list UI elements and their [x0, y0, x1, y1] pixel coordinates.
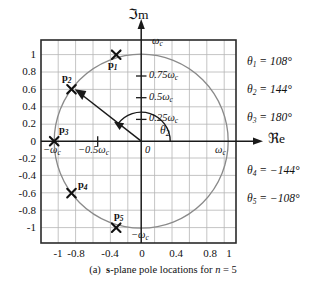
- caption-var-n: n: [215, 264, 220, 275]
- pole-label-p2-sub: 2: [68, 76, 72, 85]
- real-label-omega-c: ωc: [215, 145, 226, 157]
- ytick-label-6: -0.2: [2, 153, 36, 164]
- theta-entry-4: θ4 = −144°: [247, 165, 300, 178]
- theta1-equals: =: [259, 55, 267, 67]
- pole-label-p5: p5: [114, 211, 124, 223]
- theta1-subscript: 1: [253, 60, 257, 69]
- real-label-origin: 0: [145, 145, 150, 156]
- ytick-label-10: -1: [2, 222, 36, 233]
- imag-label-omega-c: ωc: [152, 36, 163, 48]
- theta-entry-2: θ2 = 144°: [247, 84, 292, 97]
- theta2-subscript: 2: [166, 129, 170, 138]
- theta5-value: −108°: [270, 192, 300, 204]
- real-label-neg-omega-c: −ωc: [43, 145, 61, 157]
- real-axis-arrowhead: [253, 138, 263, 145]
- ytick-label-1: 0.8: [2, 66, 36, 77]
- pole-label-p5-sub: 5: [120, 214, 124, 223]
- ytick-label-2: 0.6: [2, 84, 36, 95]
- theta-entry-3: θ3 = 180°: [247, 112, 292, 125]
- ytick-label-3: 0.4: [2, 101, 36, 112]
- imag-label-neg-omega-c: −ωc: [131, 230, 149, 242]
- pole-label-p2: p2: [62, 73, 72, 85]
- theta4-subscript: 4: [253, 169, 257, 178]
- imag-label-0p5-omega-c: 0.5ωc: [149, 92, 173, 104]
- theta4-value: −144°: [270, 164, 300, 176]
- imag-label-0p25-omega-c: 0.25ωc: [149, 113, 178, 125]
- theta2-value: 144°: [270, 83, 292, 95]
- xtick-label-1: -0.8: [60, 248, 92, 259]
- caption-eq: = 5: [223, 264, 237, 275]
- imag-label-0p75-omega-c: 0.75ωc: [149, 70, 178, 82]
- pole-label-p3-sub: 3: [65, 128, 69, 137]
- ytick-label-0: 1: [2, 49, 36, 60]
- pole-label-p1: p1: [108, 60, 118, 72]
- ytick-label-5: 0: [2, 136, 36, 147]
- ytick-label-4: 0.2: [2, 118, 36, 129]
- theta2-equals: =: [259, 83, 267, 95]
- theta4-equals: =: [259, 164, 267, 176]
- radius-vector-arrowhead: [75, 89, 87, 100]
- xtick-label-4: 0.4: [160, 248, 192, 259]
- ytick-label-7: -0.4: [2, 170, 36, 181]
- theta-entry-5: θ5 = −108°: [247, 193, 300, 206]
- radius-vector: [82, 95, 142, 142]
- theta5-subscript: 5: [253, 197, 257, 206]
- caption-prefix: (a): [89, 264, 101, 275]
- theta3-value: 180°: [270, 111, 292, 123]
- ytick-label-9: -0.8: [2, 205, 36, 216]
- ytick-label-8: -0.6: [2, 188, 36, 199]
- theta3-equals: =: [259, 111, 267, 123]
- figure-caption: (a) s-plane pole locations for n = 5: [0, 265, 326, 276]
- theta-entry-1: θ1 = 108°: [247, 56, 292, 69]
- theta3-subscript: 3: [253, 116, 257, 125]
- imag-axis-label: ℑm: [128, 8, 149, 22]
- xtick-label-2: -0.4: [94, 248, 126, 259]
- pole-label-p4-sub: 4: [84, 183, 88, 192]
- pole-label-p3: p3: [59, 125, 69, 137]
- theta5-equals: =: [259, 192, 267, 204]
- real-label-neg-0p5-omega-c: −0.5ωc: [78, 145, 109, 157]
- theta1-value: 108°: [270, 55, 292, 67]
- figure-s-plane-poles: 1 0.8 0.6 0.4 0.2 0 -0.2 -0.4 -0.6 -0.8 …: [0, 0, 326, 284]
- xtick-label-6: 1: [213, 248, 245, 259]
- theta2-arc-label: θ2: [160, 125, 169, 138]
- pole-label-p1-sub: 1: [114, 63, 118, 72]
- theta2-subscript-list: 2: [253, 88, 257, 97]
- pole-label-p4: p4: [78, 180, 88, 192]
- xtick-label-3: 0: [126, 248, 158, 259]
- real-axis-label: ℜe: [268, 132, 285, 146]
- caption-rest: -plane pole locations for: [110, 264, 212, 275]
